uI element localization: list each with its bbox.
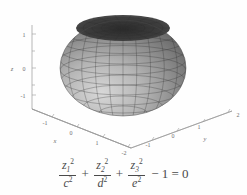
z-tick-label-1: 1 (23, 32, 26, 38)
equation-term-2: z22 d2 (94, 158, 111, 190)
x-tick-label-0: 0 (70, 130, 73, 136)
equation-tail: − 1 = 0 (149, 167, 188, 180)
z-tick-label-neg1: -1 (21, 93, 26, 99)
plot-3d-surface: 1 0 -1 z -1 0 1 -2 x (0, 0, 247, 160)
term-1-num-sub: 1 (67, 165, 71, 174)
y-tick-label-0: 0 (172, 133, 175, 139)
equation-plus-2: + (115, 167, 124, 180)
y-tick-label-neg1: -1 (146, 142, 151, 148)
y-tick-label-2: 2 (237, 112, 240, 118)
term-2-den-sup: 2 (103, 175, 107, 184)
term-3-num-sup: 2 (139, 157, 143, 166)
term-3-numerator: z32 (129, 158, 145, 174)
figure-ellipsoid: 1 0 -1 z -1 0 1 -2 x (0, 0, 247, 195)
term-2-denominator: d2 (95, 176, 109, 190)
term-3-den-sup: 2 (137, 175, 141, 184)
plot-svg: 1 0 -1 z -1 0 1 -2 x (0, 0, 247, 160)
term-1-den-sup: 2 (69, 175, 73, 184)
equation-term-1: z12 c2 (59, 158, 76, 190)
z-tick-label-0: 0 (23, 66, 26, 72)
term-3-num-sub: 3 (135, 165, 139, 174)
ellipsoid-equation: z12 c2 + z22 d2 + z32 e2 − 1 = 0 (0, 156, 247, 190)
ellipsoid-surface (41, 12, 206, 120)
term-2-numerator: z22 (94, 158, 110, 174)
term-2-num-sup: 2 (105, 157, 109, 166)
equation-term-3: z32 e2 (128, 158, 145, 190)
term-1-denominator: c2 (61, 176, 74, 190)
x-tick-label-1: 1 (96, 140, 99, 146)
x-tick-label-neg1: -1 (43, 120, 48, 126)
axis-label-z: z (10, 65, 14, 72)
axis-label-y: y (203, 135, 207, 142)
y-tick-label-1: 1 (198, 124, 201, 130)
term-2-num-sub: 2 (101, 165, 105, 174)
axis-x: -1 0 1 -2 x (32, 109, 131, 156)
axis-z: 1 0 -1 z (10, 25, 36, 109)
term-1-num-sup: 2 (70, 157, 74, 166)
term-3-denominator: e2 (130, 176, 143, 190)
axis-y: -1 0 1 2 y (131, 109, 240, 148)
equation-plus-1: + (80, 167, 89, 180)
term-1-numerator: z12 (60, 158, 76, 174)
axis-label-x: x (53, 137, 57, 144)
equation-row: z12 c2 + z22 d2 + z32 e2 − 1 = 0 (58, 158, 188, 190)
